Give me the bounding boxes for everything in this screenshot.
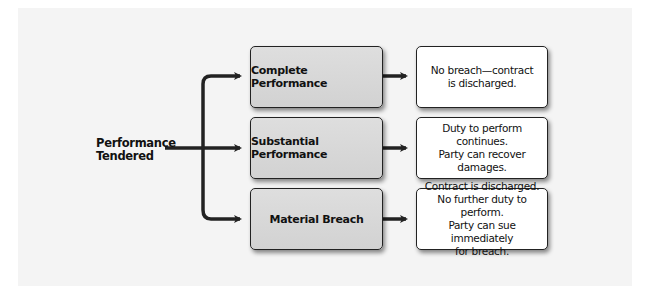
outcome-complete-performance: No breach—contract is discharged. — [416, 46, 548, 108]
outcome-text: Duty to perform continues. Party can rec… — [417, 122, 547, 174]
node-substantial-performance: Substantial Performance — [250, 117, 383, 179]
node-label: Material Breach — [270, 213, 364, 226]
outcome-text: Contract is discharged. No further duty … — [417, 180, 547, 258]
node-label: Complete Performance — [251, 64, 382, 90]
node-complete-performance: Complete Performance — [250, 46, 383, 108]
source-node-label: Performance Tendered — [96, 137, 176, 163]
node-label: Substantial Performance — [251, 135, 382, 161]
arrow-to-material — [203, 148, 240, 219]
outcome-material-breach: Contract is discharged. No further duty … — [416, 188, 548, 250]
arrow-to-complete — [203, 76, 240, 148]
node-material-breach: Material Breach — [250, 188, 383, 250]
outcome-substantial-performance: Duty to perform continues. Party can rec… — [416, 117, 548, 179]
outcome-text: No breach—contract is discharged. — [431, 64, 533, 90]
